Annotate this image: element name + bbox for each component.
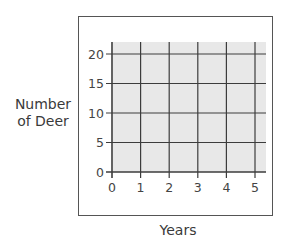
x-tick-label: 2 — [165, 180, 173, 195]
y-tick-label: 15 — [88, 76, 104, 91]
y-tick-label: 5 — [96, 135, 104, 150]
y-tick-labels: 05101520 — [88, 47, 104, 180]
y-tick-label: 20 — [88, 47, 104, 62]
y-tick-label: 10 — [88, 106, 104, 121]
x-tick-labels: 012345 — [108, 180, 259, 195]
y-tick-label: 0 — [96, 165, 104, 180]
x-tick-label: 3 — [194, 180, 202, 195]
x-tick-label: 1 — [137, 180, 145, 195]
x-tick-label: 0 — [108, 180, 116, 195]
x-tick-label: 5 — [251, 180, 259, 195]
plot-background — [113, 42, 266, 172]
plot-area: 05101520 012345 — [0, 0, 287, 248]
x-tick-label: 4 — [222, 180, 230, 195]
